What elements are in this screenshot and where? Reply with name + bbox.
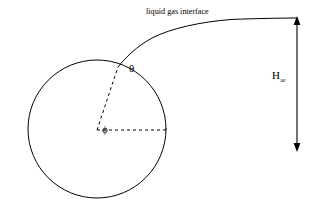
radius-dashed-to-contact-point (97, 67, 118, 130)
contact-angle-theta-label: θ (129, 62, 134, 74)
height-arrow-head-up-icon (294, 16, 301, 25)
liquid-gas-interface-diagram: liquid gas interface θ ϕ H ∞ (0, 0, 322, 217)
height-arrow-head-down-icon (294, 143, 301, 152)
liquid-gas-interface-curve (118, 18, 297, 67)
azimuthal-angle-phi-label: ϕ (102, 123, 108, 135)
height-symbol-label: H (272, 69, 280, 81)
height-subscript-infinity-label: ∞ (280, 76, 286, 85)
diagram-canvas: liquid gas interface θ ϕ H ∞ (0, 0, 322, 217)
interface-caption-label: liquid gas interface (146, 7, 209, 16)
